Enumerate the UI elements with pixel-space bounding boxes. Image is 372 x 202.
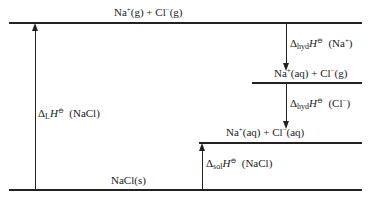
lattice-enthalpy-label: ΔLH⊖ (NaCl) bbox=[38, 107, 100, 119]
hyd-cl-enthalpy-label: ΔhydH⊖ (Cl−) bbox=[290, 97, 350, 109]
arrow-down-icon bbox=[283, 63, 289, 71]
enthalpy-cycle-diagram: Na+(g) + Cl−(g) Na+(aq) + Cl−(g) Na+(aq)… bbox=[0, 0, 372, 202]
level-line-solid bbox=[9, 189, 362, 191]
sol-arrow-shaft bbox=[202, 148, 203, 190]
level-line-aq-ions bbox=[199, 142, 362, 144]
level-label-solid: NaCl(s) bbox=[111, 174, 146, 186]
lattice-arrow-shaft bbox=[35, 28, 36, 190]
arrow-down-icon bbox=[283, 121, 289, 129]
level-label-aq-ions: Na+(aq) + Cl−(aq) bbox=[226, 126, 304, 138]
hyd-na-arrow-shaft bbox=[286, 23, 287, 68]
level-label-gas-ions: Na+(g) + Cl−(g) bbox=[114, 6, 183, 18]
level-line-na-aq-cl-g bbox=[252, 82, 362, 84]
arrow-up-icon bbox=[199, 143, 205, 151]
arrow-up-icon bbox=[32, 23, 38, 31]
sol-enthalpy-label: ΔsolH⊖ (NaCl) bbox=[206, 157, 272, 169]
hyd-na-enthalpy-label: ΔhydH⊖ (Na+) bbox=[290, 37, 353, 49]
level-line-gas-ions bbox=[9, 22, 362, 24]
